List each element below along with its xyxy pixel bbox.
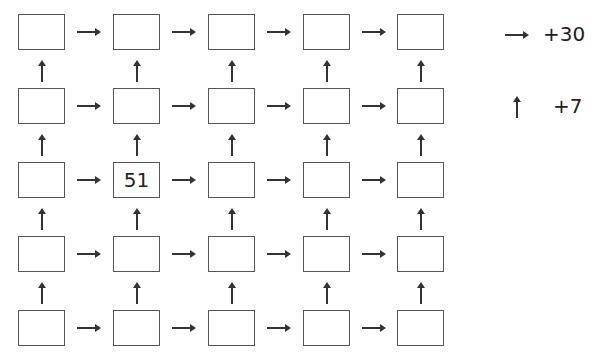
- right-arrow-icon: [77, 105, 99, 107]
- legend-up-label: +7: [553, 94, 582, 118]
- right-arrow-icon: [362, 179, 384, 181]
- grid-cell[interactable]: [113, 310, 160, 346]
- right-arrow-icon: [172, 327, 194, 329]
- up-arrow-icon: [41, 210, 43, 230]
- grid-cell[interactable]: [397, 88, 444, 124]
- grid-cell[interactable]: [208, 88, 255, 124]
- right-arrow-icon: [505, 34, 527, 36]
- up-arrow-icon: [136, 284, 138, 304]
- up-arrow-icon: [231, 210, 233, 230]
- grid-cell[interactable]: [397, 162, 444, 198]
- up-arrow-icon: [420, 284, 422, 304]
- right-arrow-icon: [77, 31, 99, 33]
- right-arrow-icon: [267, 179, 289, 181]
- grid-cell[interactable]: [397, 236, 444, 272]
- grid-cell[interactable]: [113, 14, 160, 50]
- up-arrow-icon: [516, 98, 518, 118]
- up-arrow-icon: [231, 284, 233, 304]
- up-arrow-icon: [420, 62, 422, 82]
- right-arrow-icon: [77, 179, 99, 181]
- right-arrow-icon: [172, 105, 194, 107]
- legend-right-label: +30: [543, 22, 585, 46]
- up-arrow-icon: [420, 210, 422, 230]
- right-arrow-icon: [172, 31, 194, 33]
- up-arrow-icon: [326, 62, 328, 82]
- up-arrow-icon: [41, 284, 43, 304]
- right-arrow-icon: [362, 105, 384, 107]
- right-arrow-icon: [362, 253, 384, 255]
- right-arrow-icon: [267, 105, 289, 107]
- right-arrow-icon: [77, 327, 99, 329]
- right-arrow-icon: [267, 31, 289, 33]
- grid-cell[interactable]: [208, 14, 255, 50]
- up-arrow-icon: [41, 136, 43, 156]
- up-arrow-icon: [326, 210, 328, 230]
- grid-cell[interactable]: [303, 236, 350, 272]
- grid-cell[interactable]: [113, 236, 160, 272]
- grid-cell[interactable]: [397, 310, 444, 346]
- right-arrow-icon: [172, 253, 194, 255]
- right-arrow-icon: [362, 31, 384, 33]
- grid-cell[interactable]: [208, 310, 255, 346]
- grid-cell[interactable]: [18, 14, 65, 50]
- right-arrow-icon: [77, 253, 99, 255]
- grid-cell[interactable]: [303, 14, 350, 50]
- up-arrow-icon: [231, 136, 233, 156]
- right-arrow-icon: [362, 327, 384, 329]
- grid-cell[interactable]: [303, 162, 350, 198]
- up-arrow-icon: [41, 62, 43, 82]
- grid-cell[interactable]: [303, 310, 350, 346]
- up-arrow-icon: [231, 62, 233, 82]
- grid-cell[interactable]: [397, 14, 444, 50]
- grid-cell[interactable]: [113, 88, 160, 124]
- up-arrow-icon: [136, 62, 138, 82]
- grid-cell[interactable]: [303, 88, 350, 124]
- right-arrow-icon: [172, 179, 194, 181]
- right-arrow-icon: [267, 253, 289, 255]
- up-arrow-icon: [136, 210, 138, 230]
- grid-cell[interactable]: [18, 310, 65, 346]
- grid-cell[interactable]: [208, 162, 255, 198]
- grid-cell[interactable]: 51: [113, 162, 160, 198]
- grid-cell[interactable]: [18, 162, 65, 198]
- up-arrow-icon: [136, 136, 138, 156]
- right-arrow-icon: [267, 327, 289, 329]
- grid-cell[interactable]: [18, 88, 65, 124]
- grid-cell[interactable]: [18, 236, 65, 272]
- up-arrow-icon: [420, 136, 422, 156]
- up-arrow-icon: [326, 284, 328, 304]
- grid-cell[interactable]: [208, 236, 255, 272]
- up-arrow-icon: [326, 136, 328, 156]
